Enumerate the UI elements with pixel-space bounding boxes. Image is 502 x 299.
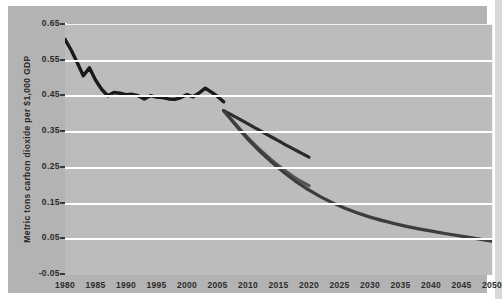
- y-tick-mark: [60, 237, 65, 239]
- x-tick-label: 2050: [482, 280, 502, 290]
- y-axis-tick-labels: 0.650.550.450.350.250.150.05-0.05: [8, 6, 60, 299]
- y-tick-mark: [60, 202, 65, 204]
- y-tick-label: 0.05: [14, 232, 60, 242]
- gridline: [65, 238, 492, 240]
- y-tick-label: 0.15: [14, 197, 60, 207]
- gridline: [65, 95, 492, 97]
- x-tick-label: 2005: [207, 280, 227, 290]
- x-tick-label: 2015: [268, 280, 288, 290]
- y-tick-label: 0.65: [14, 18, 60, 28]
- y-tick-label: 0.55: [14, 54, 60, 64]
- x-tick-label: 1985: [85, 280, 105, 290]
- gridline: [65, 167, 492, 169]
- x-tick-label: 2035: [390, 280, 410, 290]
- gridline: [65, 203, 492, 205]
- y-tick-mark: [60, 94, 65, 96]
- plot-area: [65, 24, 493, 275]
- y-tick-mark: [60, 166, 65, 168]
- chart-panel: Metric tons carbon dioxide per $1,000 GD…: [8, 6, 487, 293]
- y-tick-mark: [60, 130, 65, 132]
- x-tick-label: 1990: [116, 280, 136, 290]
- y-tick-mark: [60, 59, 65, 61]
- gridline: [65, 60, 492, 62]
- series-line: [224, 111, 309, 157]
- series-line: [224, 111, 309, 186]
- y-tick-mark: [60, 273, 65, 275]
- y-tick-label: 0.35: [14, 125, 60, 135]
- x-tick-label: 2040: [421, 280, 441, 290]
- x-tick-label: 2045: [451, 280, 471, 290]
- x-tick-label: 2025: [329, 280, 349, 290]
- gridline: [65, 131, 492, 133]
- x-tick-label: 1980: [55, 280, 75, 290]
- y-tick-label: 0.45: [14, 89, 60, 99]
- series-line: [65, 39, 224, 102]
- x-tick-label: 2020: [299, 280, 319, 290]
- x-tick-label: 2030: [360, 280, 380, 290]
- x-tick-label: 2010: [238, 280, 258, 290]
- y-tick-label: -0.05: [14, 268, 60, 278]
- y-tick-mark: [60, 23, 65, 25]
- x-tick-label: 1995: [146, 280, 166, 290]
- y-tick-label: 0.25: [14, 161, 60, 171]
- x-tick-label: 2000: [177, 280, 197, 290]
